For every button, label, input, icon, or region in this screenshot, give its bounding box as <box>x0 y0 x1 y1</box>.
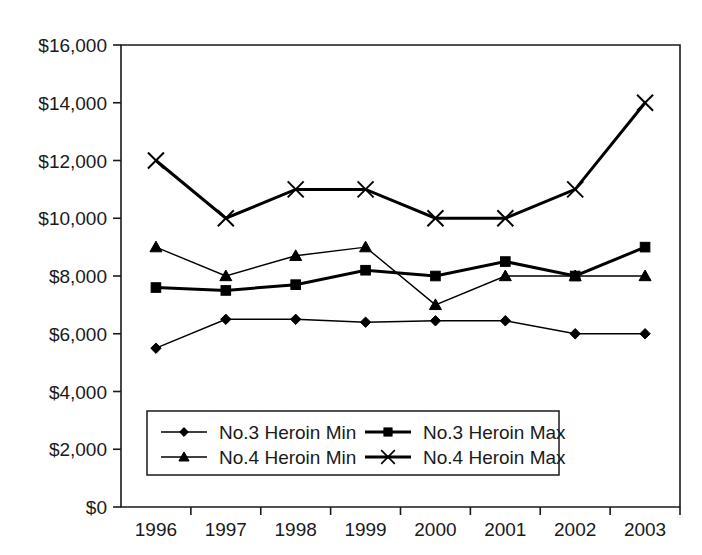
marker-square <box>501 257 511 267</box>
chart-canvas: $0$2,000$4,000$6,000$8,000$10,000$12,000… <box>0 0 702 555</box>
y-tick-label: $16,000 <box>38 35 107 56</box>
legend-label: No.4 Heroin Min <box>219 447 356 468</box>
x-tick-label: 2003 <box>624 519 666 540</box>
y-tick-label: $10,000 <box>38 208 107 229</box>
x-tick-label: 1998 <box>275 519 317 540</box>
legend-label: No.3 Heroin Min <box>219 422 356 443</box>
y-tick-label: $0 <box>86 497 107 518</box>
x-tick-label: 1996 <box>135 519 177 540</box>
y-tick-label: $2,000 <box>49 439 107 460</box>
marker-square <box>384 428 392 436</box>
marker-square <box>221 286 231 296</box>
y-tick-label: $4,000 <box>49 382 107 403</box>
y-tick-label: $6,000 <box>49 324 107 345</box>
marker-square <box>640 242 650 252</box>
y-tick-label: $12,000 <box>38 151 107 172</box>
chart-legend: No.3 Heroin MinNo.3 Heroin MaxNo.4 Heroi… <box>147 411 566 475</box>
marker-square <box>291 280 301 290</box>
x-tick-label: 2001 <box>484 519 526 540</box>
line-chart: $0$2,000$4,000$6,000$8,000$10,000$12,000… <box>0 0 702 555</box>
marker-square <box>151 283 161 293</box>
y-tick-label: $14,000 <box>38 93 107 114</box>
x-tick-label: 1999 <box>344 519 386 540</box>
legend-label: No.3 Heroin Max <box>423 422 566 443</box>
x-tick-label: 2000 <box>414 519 456 540</box>
marker-square <box>431 271 441 281</box>
x-tick-label: 2002 <box>554 519 596 540</box>
x-tick-label: 1997 <box>205 519 247 540</box>
legend-label: No.4 Heroin Max <box>423 447 566 468</box>
y-tick-label: $8,000 <box>49 266 107 287</box>
marker-square <box>361 265 371 275</box>
